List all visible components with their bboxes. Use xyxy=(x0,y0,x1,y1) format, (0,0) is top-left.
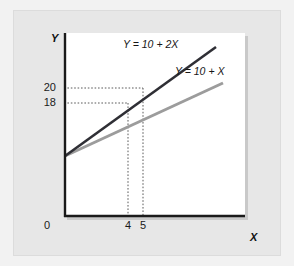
figure-container: Y X 20 18 0 4 5 Y = 10 + 2X Y = 10 + X xyxy=(0,0,294,266)
y-tick-label-20: 20 xyxy=(30,81,56,93)
origin-label: 0 xyxy=(44,219,50,231)
x-axis-label: X xyxy=(250,231,257,243)
y-axis-label: Y xyxy=(51,32,58,44)
x-tick-label-4: 4 xyxy=(121,219,135,231)
series-line-shallow xyxy=(65,83,223,156)
series-label-steep: Y = 10 + 2X xyxy=(123,38,178,50)
series-label-shallow: Y = 10 + X xyxy=(175,65,224,77)
y-tick-label-18: 18 xyxy=(30,96,56,108)
x-tick-label-5: 5 xyxy=(136,219,150,231)
series-line-steep xyxy=(65,47,216,156)
